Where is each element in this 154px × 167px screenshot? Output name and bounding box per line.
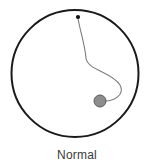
anatomical-diagram bbox=[0, 0, 154, 167]
boundary-circle-shape bbox=[12, 10, 139, 137]
cord-path-shape bbox=[78, 18, 121, 101]
attachment-point-dot bbox=[76, 15, 80, 19]
figure-caption: Normal bbox=[0, 148, 154, 162]
body-circle-shape bbox=[94, 95, 106, 107]
figure-panel: Normal bbox=[0, 0, 154, 167]
